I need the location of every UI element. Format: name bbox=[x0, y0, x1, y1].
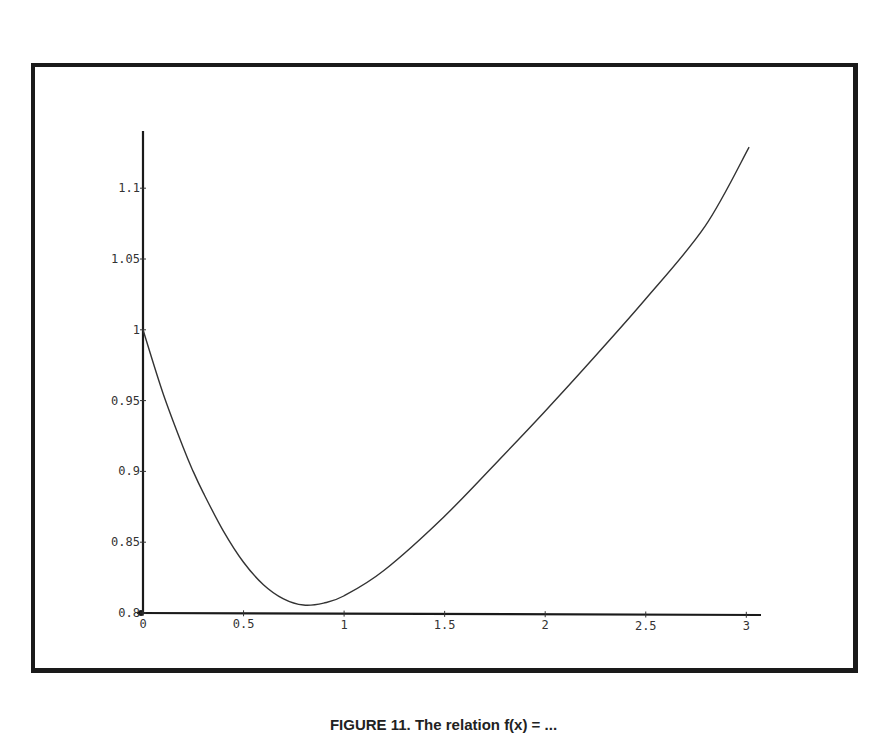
y-tick-label: 0.95 bbox=[111, 394, 140, 408]
y-tick-label: 0.85 bbox=[111, 535, 140, 549]
x-tick-label: 1 bbox=[340, 618, 347, 632]
y-tick-label: 1.05 bbox=[111, 252, 140, 266]
y-tick-label: 0.9 bbox=[118, 464, 140, 478]
x-tick-label: 2.5 bbox=[635, 619, 657, 633]
x-tick-label: 3 bbox=[743, 619, 750, 633]
x-tick-label: 0 bbox=[139, 617, 146, 631]
tick-labels: 0.80.850.90.9511.051.100.511.522.53 bbox=[111, 181, 750, 633]
x-tick-label: 2 bbox=[542, 618, 549, 632]
y-tick-label: 1.1 bbox=[118, 181, 140, 195]
x-axis bbox=[137, 613, 761, 615]
figure-caption: FIGURE 11. The relation f(x) = ... bbox=[0, 716, 887, 733]
x-tick-label: 1.5 bbox=[434, 618, 456, 632]
x-tick-label: 0.5 bbox=[233, 617, 255, 631]
y-tick-label: 1 bbox=[133, 323, 140, 337]
y-tick-label: 0.8 bbox=[118, 606, 140, 620]
tick-marks bbox=[140, 188, 746, 618]
data-curve bbox=[143, 147, 749, 605]
